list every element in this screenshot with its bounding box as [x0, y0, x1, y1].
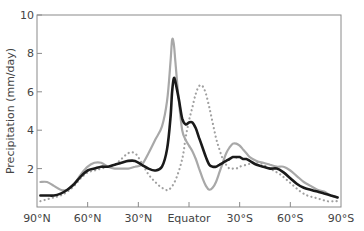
x-tick-label: 30°N [124, 212, 152, 225]
x-tick-label: Equator [167, 212, 211, 225]
series-line-black-solid [40, 78, 337, 198]
y-tick-label: 6 [27, 86, 34, 99]
x-axis: 90°N60°N30°NEquator30°S60°S90°S [23, 202, 354, 225]
y-tick-label: 8 [27, 47, 34, 60]
y-tick-label: 4 [27, 124, 34, 137]
plot-lines [40, 39, 337, 202]
x-tick-label: 90°N [23, 212, 51, 225]
x-tick-label: 60°S [277, 212, 303, 225]
y-axis-title: Precipitation (mm/day) [4, 48, 17, 174]
x-tick-label: 30°S [226, 212, 252, 225]
series-line-grey-dotted [40, 85, 337, 201]
precipitation-chart: 246810 90°N60°N30°NEquator30°S60°S90°S P… [0, 0, 364, 231]
y-axis: 246810 [20, 9, 42, 176]
x-tick-label: 60°N [74, 212, 102, 225]
y-tick-label: 2 [27, 163, 34, 176]
x-tick-label: 90°S [328, 212, 354, 225]
y-tick-label: 10 [20, 9, 34, 22]
plot-frame [37, 15, 341, 207]
